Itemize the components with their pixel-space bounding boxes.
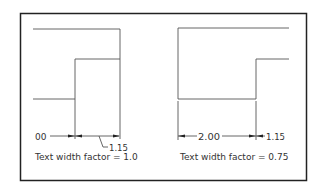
right-dim-text-2-00: 2.00 — [198, 132, 220, 142]
left-dim-text: 00 — [35, 132, 47, 142]
left-dim-text-1-15: 1.15 — [109, 143, 128, 153]
left-panel — [33, 29, 120, 147]
arrowhead-icon — [75, 135, 82, 138]
right-step-profile — [178, 28, 289, 99]
arrowhead-icon — [249, 135, 256, 138]
dimension-diagram: 00 1.15 Text width factor = 1.0 2.00 1.1… — [0, 0, 323, 190]
left-leader-line — [99, 136, 108, 147]
left-step-profile — [33, 29, 120, 99]
left-caption: Text width factor = 1.0 — [34, 152, 138, 162]
arrowhead-icon — [68, 135, 75, 138]
right-panel — [178, 28, 289, 140]
right-dim-text-1-15: 1.15 — [266, 132, 285, 142]
arrowhead-icon — [178, 135, 185, 138]
right-caption: Text width factor = 0.75 — [179, 152, 288, 162]
arrowhead-icon — [256, 135, 263, 138]
arrowhead-icon — [113, 135, 120, 138]
